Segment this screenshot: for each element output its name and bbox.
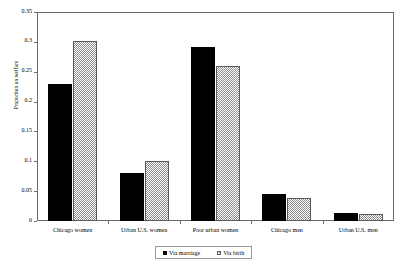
bar-via-birth	[359, 214, 383, 221]
y-axis-tick-label: 0.15	[22, 127, 33, 133]
legend-item[interactable]: Via birth	[217, 250, 244, 256]
x-axis-category-label: Poor urban women	[193, 227, 239, 233]
bar-via-birth	[216, 66, 240, 221]
x-axis-tick-mark	[108, 221, 109, 224]
x-axis-category-label: Urban U.S. women	[121, 227, 167, 233]
x-axis-category-label: Chicago women	[53, 227, 92, 233]
y-axis-tick-label: 0.35	[22, 8, 33, 14]
legend-item[interactable]: Via marriage	[163, 250, 200, 256]
legend-swatch-via-marriage	[163, 251, 167, 255]
x-axis-tick-mark	[251, 221, 252, 224]
x-axis-tick-mark	[323, 221, 324, 224]
y-axis-tick-label: 0	[29, 217, 32, 223]
bar-via-birth	[73, 41, 97, 221]
bar-via-marriage	[334, 213, 358, 221]
y-axis-tick-mark	[34, 102, 37, 103]
y-axis-tick-label: 0.05	[22, 187, 33, 193]
y-axis-title: Proportion on welfare	[13, 25, 19, 145]
x-axis-category-label: Chicago men	[271, 227, 303, 233]
bar-via-marriage	[191, 47, 215, 221]
y-axis-tick-mark	[34, 72, 37, 73]
y-axis-tick-mark	[34, 42, 37, 43]
legend-label: Via marriage	[169, 250, 200, 256]
y-axis-tick-mark	[34, 191, 37, 192]
y-axis-tick-label: 0.2	[25, 97, 33, 103]
y-axis-tick-label: 0.3	[25, 37, 33, 43]
bar-chart: Proportion on welfare 00.050.10.150.20.2…	[0, 0, 405, 270]
bar-via-marriage	[262, 194, 286, 221]
bar-via-marriage	[48, 84, 72, 221]
y-axis-tick-label: 0.25	[22, 67, 33, 73]
x-axis-category-label: Urban U.S. men	[339, 227, 378, 233]
bar-via-marriage	[120, 173, 144, 221]
y-axis-tick-mark	[34, 221, 37, 222]
bar-via-birth	[145, 161, 169, 221]
x-axis-tick-mark	[180, 221, 181, 224]
y-axis-tick-mark	[34, 12, 37, 13]
bar-via-birth	[287, 198, 311, 221]
chart-legend: Via marriageVia birth	[155, 246, 252, 259]
y-axis-tick-label: 0.1	[25, 157, 33, 163]
legend-swatch-via-birth	[217, 251, 221, 255]
legend-label: Via birth	[223, 250, 244, 256]
y-axis-tick-mark	[34, 131, 37, 132]
y-axis-tick-mark	[34, 161, 37, 162]
